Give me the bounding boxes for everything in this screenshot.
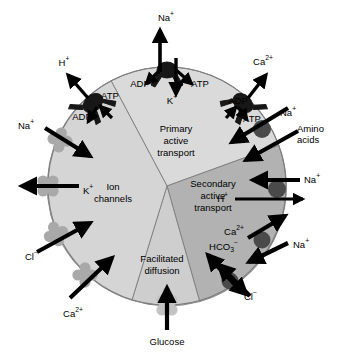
sector-label-line: diffusion: [144, 265, 179, 276]
label-na-plus-top: Na+: [158, 10, 174, 23]
label-h-plus-top-left: H+: [59, 55, 70, 68]
label-cl-minus-bottom-right: Cl−: [244, 289, 257, 302]
label-hco3: HCO3−: [209, 239, 238, 253]
sector-label-line: transport: [157, 147, 195, 158]
label-amino-acids-line1: Amino: [297, 123, 324, 134]
label-adp-top-center: ADP: [130, 78, 150, 89]
arrow-ca-out: [248, 75, 266, 98]
label-ca-2plus-top-right: Ca2+: [253, 54, 273, 67]
label-atp-top-right: ATP: [243, 113, 261, 124]
label-na-plus-exchanger: Na+: [304, 172, 320, 185]
label-facilitated-diffusion: Facilitated diffusion: [140, 253, 183, 276]
sector-label-line: Facilitated: [140, 253, 183, 264]
label-cl-minus-left: Cl−: [25, 249, 38, 262]
sector-label-line: Secondary: [190, 178, 236, 189]
label-adp-top-left: ADP: [72, 111, 92, 122]
label-adp-top-right: ADP: [228, 95, 248, 106]
label-glucose: Glucose: [150, 336, 185, 347]
label-amino-acids-line2: acids: [297, 134, 319, 145]
sector-label-line: channels: [94, 193, 132, 204]
arrow-h-out: [68, 75, 88, 98]
sector-label-line: Primary: [160, 123, 193, 134]
na-h-carrier-icon: [268, 180, 286, 198]
membrane-transport-diagram: Primary active transport Secondary activ…: [0, 0, 345, 358]
label-atp-top-left: ATP: [101, 90, 119, 101]
label-na-plus-ca-exchanger: Na+: [293, 237, 309, 250]
sector-label-line: transport: [194, 202, 232, 213]
diagram-canvas: Primary active transport Secondary activ…: [0, 0, 345, 358]
sector-label-line: active: [164, 135, 189, 146]
label-na-plus-amino: Na+: [280, 105, 296, 118]
label-ca-2plus-bottom-left: Ca2+: [63, 306, 83, 319]
sector-label-line: Ion: [106, 181, 119, 192]
label-atp-top-center: ATP: [191, 78, 209, 89]
label-na-plus-left: Na+: [18, 118, 34, 131]
